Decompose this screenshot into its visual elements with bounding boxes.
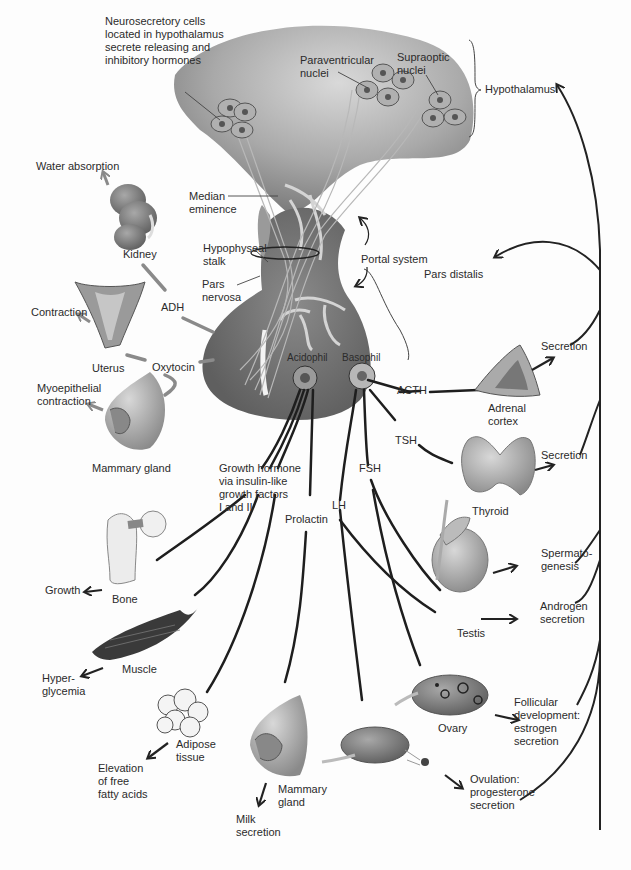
- adipose-illustration: [157, 689, 208, 737]
- hypothalamus-label: Hypothalamus: [485, 83, 555, 96]
- adrenal-secretion-label: Secretion: [541, 340, 587, 353]
- lh-label: LH: [332, 499, 346, 512]
- thyroid-illustration: [462, 437, 536, 495]
- thyroid-label: Thyroid: [472, 505, 509, 518]
- pars-distalis-label: Pars distalis: [424, 268, 483, 281]
- adrenal-cortex-label: Adrenal cortex: [488, 402, 526, 428]
- neurosecretory-cells-label: Neurosecretory cells located in hypothal…: [105, 15, 224, 67]
- growth-label: Growth: [45, 584, 80, 597]
- kidney-illustration: [110, 184, 157, 250]
- fatty-acids-label: Elevation of free fatty acids: [98, 762, 148, 801]
- mammary-gland-bottom-label: Mammary gland: [278, 783, 327, 809]
- bone-illustration: [107, 511, 166, 584]
- paraventricular-nuclei-label: Paraventricular nuclei: [300, 54, 374, 80]
- contraction-label: Contraction: [31, 306, 87, 319]
- ovary-illustration: [395, 675, 488, 715]
- bone-label: Bone: [112, 593, 138, 606]
- pars-nervosa-label: Pars nervosa: [202, 278, 241, 304]
- mammary-gland-top-illustration: [105, 372, 165, 450]
- adrenal-cortex-illustration: [475, 345, 540, 396]
- basophil-cell: [349, 363, 375, 389]
- ovulating-ovary-illustration: [322, 727, 429, 766]
- androgen-secretion-label: Androgen secretion: [540, 600, 588, 626]
- follicular-development-label: Follicular development: estrogen secreti…: [514, 696, 580, 748]
- supraoptic-nuclei-label: Supraoptic nuclei: [397, 51, 450, 77]
- milk-secretion-label: Milk secretion: [236, 813, 281, 839]
- spermatogenesis-label: Spermato- genesis: [541, 547, 592, 573]
- uterus-label: Uterus: [92, 362, 124, 375]
- basophil-label: Basophil: [342, 352, 380, 364]
- pituitary-hormone-diagram: Neurosecretory cells located in hypothal…: [0, 0, 631, 870]
- fsh-label: FSH: [359, 462, 381, 475]
- thyroid-secretion-label: Secretion: [541, 449, 587, 462]
- growth-hormone-label: Growth hormone via insulin-like growth f…: [219, 462, 301, 514]
- acidophil-cell: [293, 366, 317, 390]
- acth-label: ACTH: [397, 384, 427, 397]
- ovary-label: Ovary: [438, 722, 467, 735]
- oxytocin-label: Oxytocin: [152, 361, 195, 374]
- hyperglycemia-label: Hyper- glycemia: [42, 672, 85, 698]
- mammary-gland-top-label: Mammary gland: [92, 462, 171, 475]
- mammary-gland-bottom-illustration: [250, 695, 308, 776]
- kidney-label: Kidney: [123, 248, 157, 261]
- acidophil-label: Acidophil: [287, 352, 328, 364]
- portal-system-label: Portal system: [361, 253, 428, 266]
- ovulation-label: Ovulation: progesterone secretion: [470, 773, 535, 812]
- tsh-label: TSH: [395, 434, 417, 447]
- muscle-illustration: [92, 608, 198, 660]
- myoepithelial-contraction-label: Myoepithelial contraction: [37, 382, 101, 408]
- adh-label: ADH: [161, 301, 184, 314]
- adipose-tissue-label: Adipose tissue: [176, 738, 216, 764]
- hypophyseal-stalk-label: Hypophyseal stalk: [203, 242, 267, 268]
- prolactin-label: Prolactin: [285, 513, 328, 526]
- muscle-label: Muscle: [122, 663, 157, 676]
- water-absorption-label: Water absorption: [36, 160, 119, 173]
- median-eminence-label: Median eminence: [189, 190, 237, 216]
- testis-label: Testis: [457, 627, 485, 640]
